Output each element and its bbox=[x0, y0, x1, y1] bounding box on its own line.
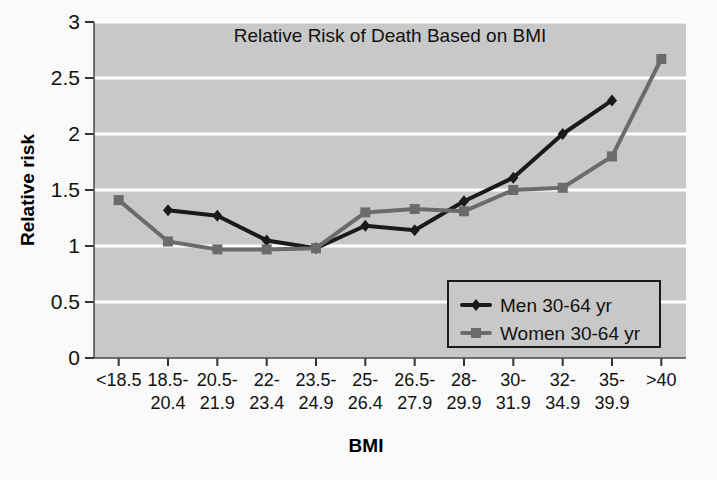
data-point-marker bbox=[163, 237, 173, 247]
x-tick-label-line2: 20.4 bbox=[150, 393, 185, 413]
x-tick-label: <18.5 bbox=[96, 370, 142, 390]
x-tick-label: 18.5- bbox=[147, 370, 188, 390]
x-tick-label-line2: 23.4 bbox=[249, 393, 284, 413]
y-tick-label: 0 bbox=[68, 346, 80, 369]
x-tick-label-line2: 26.4 bbox=[348, 393, 383, 413]
legend-label: Women 30-64 yr bbox=[500, 323, 641, 344]
y-tick-label: 0.5 bbox=[51, 290, 80, 313]
x-tick-label: >40 bbox=[646, 370, 677, 390]
data-point-marker bbox=[212, 244, 222, 254]
data-point-marker bbox=[508, 185, 518, 195]
x-tick-label: 35- bbox=[599, 370, 625, 390]
x-tick-label-line2: 39.9 bbox=[594, 393, 629, 413]
data-point-marker bbox=[410, 204, 420, 214]
chart-legend[interactable]: Men 30-64 yrWomen 30-64 yr bbox=[448, 281, 660, 347]
x-tick-label: 23.5- bbox=[295, 370, 336, 390]
y-tick-label: 1 bbox=[68, 234, 80, 257]
x-tick-label-line2: 31.9 bbox=[496, 393, 531, 413]
y-tick-label: 2 bbox=[68, 122, 80, 145]
y-tick-label: 3 bbox=[68, 10, 80, 33]
data-point-marker bbox=[114, 195, 124, 205]
x-tick-label-line2: 24.9 bbox=[298, 393, 333, 413]
x-tick-label: 28- bbox=[451, 370, 477, 390]
data-point-marker bbox=[558, 183, 568, 193]
x-tick-label: 25- bbox=[352, 370, 378, 390]
x-tick-label: 30- bbox=[500, 370, 526, 390]
chart-figure: 00.511.522.53 <18.518.5-20.420.5-21.922-… bbox=[0, 0, 717, 480]
x-tick-label: 26.5- bbox=[394, 370, 435, 390]
x-tick-label: 32- bbox=[550, 370, 576, 390]
x-tick-label-line2: 34.9 bbox=[545, 393, 580, 413]
x-axis-title: BMI bbox=[349, 435, 384, 456]
x-tick-label: 20.5- bbox=[197, 370, 238, 390]
data-point-marker bbox=[471, 328, 481, 338]
data-point-marker bbox=[360, 207, 370, 217]
data-point-marker bbox=[656, 54, 666, 64]
data-point-marker bbox=[459, 206, 469, 216]
data-point-marker bbox=[262, 244, 272, 254]
x-tick-label: 22- bbox=[254, 370, 280, 390]
y-axis-title: Relative risk bbox=[17, 134, 38, 246]
x-tick-label-line2: 29.9 bbox=[446, 393, 481, 413]
x-tick-label-line2: 21.9 bbox=[200, 393, 235, 413]
data-point-marker bbox=[607, 151, 617, 161]
y-tick-label: 2.5 bbox=[51, 66, 80, 89]
y-tick-label: 1.5 bbox=[51, 178, 80, 201]
x-tick-label-line2: 27.9 bbox=[397, 393, 432, 413]
legend-label: Men 30-64 yr bbox=[500, 295, 613, 316]
relative-risk-chart: 00.511.522.53 <18.518.5-20.420.5-21.922-… bbox=[0, 0, 717, 480]
chart-title: Relative Risk of Death Based on BMI bbox=[234, 25, 547, 46]
data-point-marker bbox=[311, 243, 321, 253]
